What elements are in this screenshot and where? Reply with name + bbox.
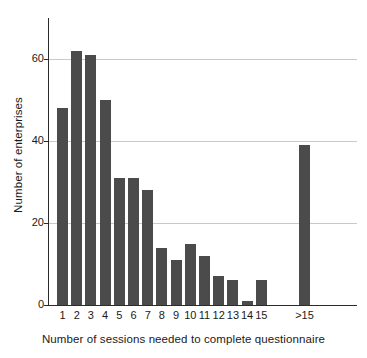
- y-axis-title: Number of enterprises: [10, 5, 26, 305]
- y-tick-label-40: 40: [22, 135, 44, 146]
- bar: [128, 178, 139, 305]
- y-axis-line: [48, 18, 49, 305]
- bar: [114, 178, 125, 305]
- bar: [142, 190, 153, 305]
- x-tick-label-gt15: >15: [292, 310, 318, 321]
- bar: [299, 145, 310, 305]
- bar-chart: Number of enterprises 0204060 1234567891…: [0, 0, 367, 358]
- bar: [256, 280, 267, 305]
- y-tick-label-20: 20: [22, 217, 44, 228]
- y-tick-mark-20: [44, 223, 48, 224]
- bar: [100, 100, 111, 305]
- y-tick-mark-40: [44, 141, 48, 142]
- y-tick-mark-60: [44, 59, 48, 60]
- bar: [242, 301, 253, 305]
- bar: [57, 108, 68, 305]
- bar: [156, 248, 167, 305]
- y-tick-mark-0: [44, 305, 48, 306]
- bar: [185, 244, 196, 306]
- plot-area: 0204060 123456789101112131415>15: [48, 18, 357, 305]
- bar: [199, 256, 210, 305]
- x-axis-title: Number of sessions needed to complete qu…: [0, 333, 367, 345]
- bar: [85, 55, 96, 305]
- x-tick-label-15: 15: [248, 310, 274, 321]
- bar: [71, 51, 82, 305]
- bar: [171, 260, 182, 305]
- x-axis-line: [48, 305, 357, 306]
- bar: [213, 276, 224, 305]
- bar: [227, 280, 238, 305]
- y-tick-label-0: 0: [22, 299, 44, 310]
- y-tick-label-60: 60: [22, 53, 44, 64]
